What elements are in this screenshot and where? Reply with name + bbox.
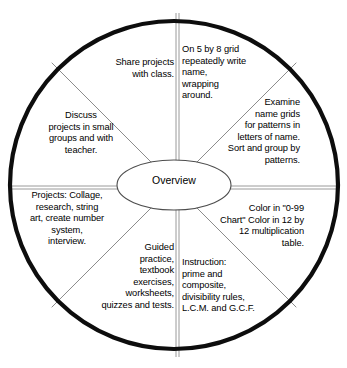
center-label: Overview <box>118 174 230 186</box>
sector-guided-practice: Guided practice, textbook exercises, wor… <box>96 242 174 312</box>
sector-examine-patterns: Examine name grids for patterns in lette… <box>214 97 300 167</box>
sector-name-grid: On 5 by 8 grid repeatedly write name, wr… <box>182 44 260 102</box>
sector-color-charts: Color in "0-99 Chart" Color in 12 by 12 … <box>208 203 304 249</box>
sector-instruction: Instruction: prime and composite, divisi… <box>182 257 272 315</box>
diagram-canvas: Overview Share projects with class. On 5… <box>0 0 347 368</box>
sector-projects: Projects: Collage, research, string art,… <box>12 190 122 248</box>
sector-share-projects: Share projects with class. <box>96 57 174 80</box>
sector-discuss: Discuss projects in small groups and wit… <box>28 110 134 156</box>
